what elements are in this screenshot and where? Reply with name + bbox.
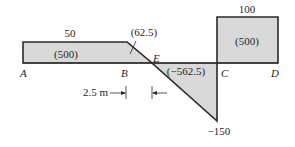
area-label-ec: (−562.5) [167,65,206,78]
value-label-100: 100 [239,3,256,15]
dim-arrow-right-head [121,91,126,95]
point-label-d: D [270,67,279,79]
point-label-c: C [221,67,229,79]
area-label-ab: (500) [54,48,78,61]
value-label-50: 50 [65,27,77,39]
dimension-label: 2.5 m [83,86,109,98]
shear-diagram: 50 (500) (62.5) (−562.5) 100 (500) −150 … [0,0,295,147]
area-label-be: (62.5) [131,26,158,39]
point-label-b: B [121,67,128,79]
value-label-neg150: −150 [208,125,231,137]
point-label-a: A [19,67,27,79]
area-label-cd: (500) [235,35,259,48]
region-ab-positive [23,42,152,63]
point-label-e: E [152,52,160,64]
dim-arrow-left-head [152,91,157,95]
